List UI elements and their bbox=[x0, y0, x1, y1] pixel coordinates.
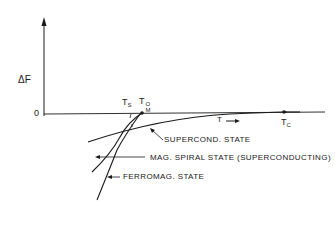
mag-spiral-label: MAG. SPIRAL STATE (SUPERCONDUCTING) bbox=[150, 154, 331, 162]
t-direction-arrowhead-icon bbox=[235, 119, 240, 123]
ts-tick bbox=[130, 114, 131, 118]
t-direction-label: T bbox=[217, 116, 222, 124]
zero-label: 0 bbox=[34, 109, 39, 118]
supercond-leader bbox=[152, 130, 163, 140]
ferromag-leader-arrowhead-icon bbox=[107, 175, 112, 179]
supercond-label: SUPERCOND. STATE bbox=[164, 136, 251, 144]
ferromag-label: FERROMAG. STATE bbox=[123, 173, 204, 181]
diagram-canvas bbox=[0, 0, 335, 226]
tm0-label: TOM bbox=[139, 97, 151, 113]
y-axis-arrow-icon bbox=[42, 17, 47, 26]
y-axis-label: ΔF bbox=[18, 75, 31, 85]
mag-spiral-leader-arrowhead-icon bbox=[95, 155, 100, 159]
tc-label: TC bbox=[281, 118, 291, 127]
ts-label: TS bbox=[122, 98, 132, 107]
